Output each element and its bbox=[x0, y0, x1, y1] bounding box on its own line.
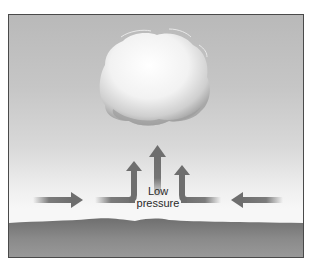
label-line-2: pressure bbox=[127, 197, 189, 209]
arrow-right-inflow-icon bbox=[231, 192, 283, 208]
diagram-scene bbox=[9, 15, 304, 258]
ground bbox=[9, 218, 304, 258]
label-line-1: Low bbox=[127, 185, 189, 197]
low-pressure-label: Low pressure bbox=[127, 185, 189, 209]
arrow-left-inflow-icon bbox=[33, 192, 83, 208]
diagram-frame: Low pressure bbox=[8, 14, 304, 258]
cloud-icon bbox=[100, 29, 210, 126]
